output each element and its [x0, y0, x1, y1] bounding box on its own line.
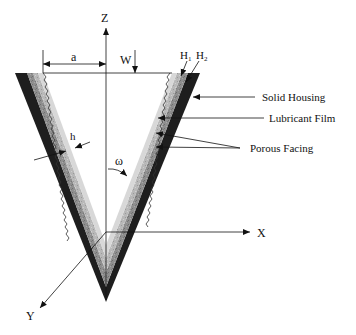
h2-label: H2: [196, 49, 208, 63]
solid-housing-right: [106, 73, 200, 302]
w-label: W: [120, 53, 132, 67]
porous-facing-callout: Porous Facing: [250, 142, 314, 154]
h-arrow-in: [75, 142, 90, 148]
x-axis-label: X: [257, 226, 266, 240]
omega-arc: [108, 169, 127, 176]
lubricant-film-callout: Lubricant Film: [269, 112, 336, 124]
solid-housing-callout: Solid Housing: [262, 91, 326, 103]
omega-label: ω: [115, 154, 123, 168]
h1-label: H1: [180, 49, 192, 63]
a-label: a: [71, 50, 77, 64]
porous-facing-right-outer: [106, 73, 188, 287]
lubricant-film-left: [38, 73, 106, 258]
right-wall: [106, 73, 200, 302]
h-label: h: [70, 130, 76, 142]
porous-facing-left-inner: [33, 73, 106, 272]
z-axis-label: Z: [101, 11, 108, 25]
y-axis-label: Y: [26, 309, 35, 323]
bearing-diagram: Z X Y a W H1 H2 h ω Solid Housing Lubric…: [0, 0, 356, 335]
